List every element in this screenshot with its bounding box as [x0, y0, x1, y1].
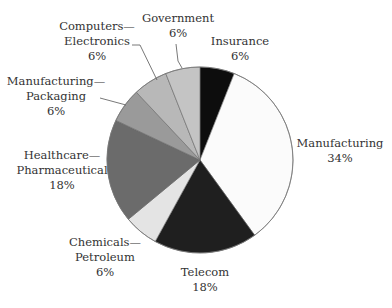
label-computers-electronics-value: 6%	[52, 49, 142, 64]
label-healthcare-pharmaceutical-line1: Healthcare—	[12, 148, 112, 163]
label-manufacturing-packaging: Manufacturing— Packaging 6%	[4, 74, 108, 119]
label-telecom-value: 18%	[170, 280, 240, 295]
pie-slices	[107, 67, 293, 253]
label-government-name: Government	[138, 11, 218, 26]
label-computers-electronics-line2: Electronics	[52, 34, 142, 49]
label-healthcare-pharmaceutical-line2: Pharmaceutical	[12, 163, 112, 178]
label-healthcare-pharmaceutical: Healthcare— Pharmaceutical 18%	[12, 148, 112, 193]
label-chemicals-petroleum-line1: Chemicals—	[60, 235, 150, 250]
label-manufacturing-packaging-value: 6%	[4, 104, 108, 119]
label-insurance-value: 6%	[205, 49, 275, 64]
label-telecom-name: Telecom	[170, 265, 240, 280]
label-manufacturing-packaging-line2: Packaging	[4, 89, 108, 104]
label-chemicals-petroleum-value: 6%	[60, 265, 150, 280]
label-chemicals-petroleum-line2: Petroleum	[60, 250, 150, 265]
leader-line-government	[176, 44, 182, 68]
label-manufacturing-name: Manufacturing	[288, 136, 392, 151]
label-government-value: 6%	[138, 26, 218, 41]
label-telecom: Telecom 18%	[170, 265, 240, 295]
label-chemicals-petroleum: Chemicals— Petroleum 6%	[60, 235, 150, 280]
label-computers-electronics: Computers— Electronics 6%	[52, 19, 142, 64]
label-manufacturing-value: 34%	[288, 151, 392, 166]
label-manufacturing-packaging-line1: Manufacturing—	[4, 74, 108, 89]
label-healthcare-pharmaceutical-value: 18%	[12, 178, 112, 193]
label-government: Government 6%	[138, 11, 218, 41]
label-computers-electronics-line1: Computers—	[52, 19, 142, 34]
label-manufacturing: Manufacturing 34%	[288, 136, 392, 166]
